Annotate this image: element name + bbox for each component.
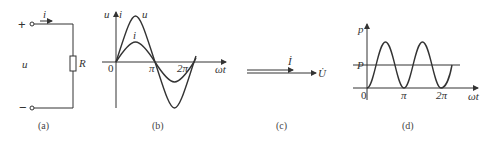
curve-i-label: i <box>133 29 136 41</box>
voltage-label: u <box>22 58 28 70</box>
panel-d-power: p P 0 π 2π ωt (d) <box>353 23 480 132</box>
caption-c: (c) <box>276 120 287 132</box>
resistor-icon <box>70 56 76 71</box>
phasor-I-label: İ <box>287 55 293 67</box>
x-axis-label: ωt <box>215 63 227 75</box>
phasor-U-label: U̇ <box>318 67 327 79</box>
origin-label: 0 <box>108 62 114 74</box>
tick-pi: π <box>401 89 407 101</box>
panel-a-circuit: + i R − u (a) <box>18 8 86 132</box>
caption-d: (d) <box>402 120 414 132</box>
y-axis-label-i: i <box>119 8 122 20</box>
resistor-label: R <box>78 57 86 69</box>
plus-terminal-label: + <box>18 17 26 32</box>
caption-a: (a) <box>38 120 49 132</box>
figure-canvas: + i R − u (a) u i 0 π 2π ωt u i (b) İ <box>0 0 493 143</box>
average-power-label: P <box>356 59 364 71</box>
tick-2pi: 2π <box>436 89 448 101</box>
y-axis-label-u: u <box>104 8 110 20</box>
bottom-terminal-icon <box>30 106 34 110</box>
minus-terminal-label: − <box>19 100 27 115</box>
panel-b-waveforms: u i 0 π 2π ωt u i (b) <box>102 8 227 132</box>
origin-label: 0 <box>361 89 367 101</box>
tick-pi: π <box>149 62 155 74</box>
current-label: i <box>43 8 46 20</box>
x-axis-label: ωt <box>468 90 480 102</box>
top-terminal-icon <box>30 22 34 26</box>
curve-u-label: u <box>142 8 148 20</box>
caption-b: (b) <box>152 120 164 132</box>
y-axis-label: p <box>357 23 364 35</box>
panel-c-phasors: İ U̇ (c) <box>247 55 327 132</box>
